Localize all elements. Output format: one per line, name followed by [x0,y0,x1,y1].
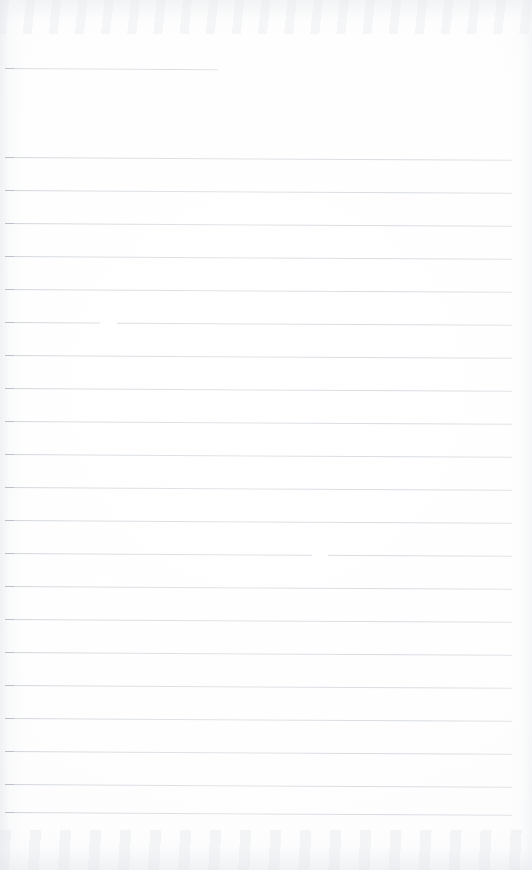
paper-background [0,0,532,870]
scanned-page [0,0,532,870]
